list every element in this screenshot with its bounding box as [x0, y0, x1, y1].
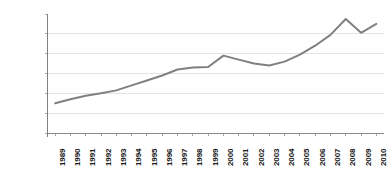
x-axis-tick-label: 1998	[196, 149, 204, 166]
x-axis-tick-label: 2009	[365, 149, 373, 166]
x-axis-tick-label: 2005	[303, 149, 311, 166]
line-chart: $0$200$400$600$800$1,000$1,200 198919901…	[0, 0, 388, 172]
x-axis-tick-label: 1990	[74, 149, 82, 166]
x-axis-tick-label: 2000	[227, 149, 235, 166]
x-axis-tick-label: 1992	[105, 149, 113, 166]
x-axis-tick-label: 1993	[120, 149, 128, 166]
x-axis-tick-label: 1991	[89, 149, 97, 166]
x-axis-tick-label: 2006	[319, 149, 327, 166]
x-axis-tick-label: 1997	[181, 149, 189, 166]
x-axis-tick-label: 1995	[151, 149, 159, 166]
x-axis-tick-label: 2008	[349, 149, 357, 166]
x-axis-labels: 1989199019911992199319941995199619971998…	[0, 0, 388, 172]
x-axis-tick-label: 1994	[135, 149, 143, 166]
x-axis-tick-label: 1996	[166, 149, 174, 166]
x-axis-tick-label: 2004	[288, 149, 296, 166]
x-axis-tick-label: 2002	[258, 149, 266, 166]
x-axis-tick-label: 2001	[242, 149, 250, 166]
x-axis-tick-label: 1989	[59, 149, 67, 166]
x-axis-tick-label: 2010	[380, 149, 388, 166]
x-axis-tick-label: 2007	[334, 149, 342, 166]
x-axis-tick-label: 1999	[212, 149, 220, 166]
x-axis-tick-label: 2003	[273, 149, 281, 166]
